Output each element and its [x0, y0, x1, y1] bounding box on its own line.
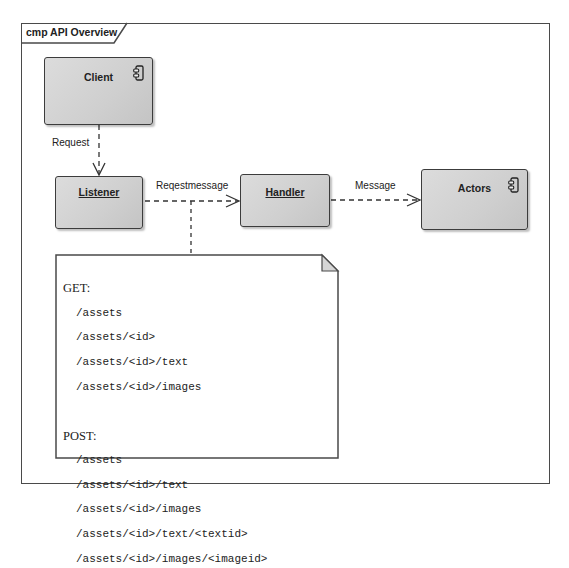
connector-label-request: Request: [52, 137, 89, 148]
component-icon: [508, 177, 519, 193]
component-icon: [133, 65, 144, 81]
component-label: Listener: [56, 186, 142, 198]
note-get-path: /assets/<id>: [63, 331, 267, 343]
component-label: Handler: [241, 186, 329, 198]
note-post-path: /assets/<id>/images: [63, 503, 267, 515]
frame-title: cmp API Overview: [26, 26, 117, 38]
note-post-path: /assets: [63, 454, 267, 466]
connector-label-reqestmessage: Reqestmessage: [156, 180, 228, 191]
component-client[interactable]: Client: [44, 57, 153, 125]
component-listener[interactable]: Listener: [55, 176, 143, 229]
note-post-path: /assets/<id>/images/<imageid>: [63, 553, 267, 565]
note-post-path: /assets/<id>/text/<textid>: [63, 528, 267, 540]
note-post-label: POST:: [63, 430, 267, 442]
note-get-path: /assets/<id>/images: [63, 381, 267, 393]
note-get-label: GET:: [63, 282, 267, 294]
note-post-path: /assets/<id>/text: [63, 479, 267, 491]
component-actors[interactable]: Actors: [421, 169, 528, 230]
connector-label-message: Message: [355, 180, 396, 191]
note-get-path: /assets: [63, 307, 267, 319]
component-handler[interactable]: Handler: [240, 174, 330, 227]
note-content: GET: /assets /assets/<id> /assets/<id>/t…: [63, 270, 267, 568]
note-get-path: /assets/<id>/text: [63, 356, 267, 368]
note-fold: [322, 255, 338, 271]
